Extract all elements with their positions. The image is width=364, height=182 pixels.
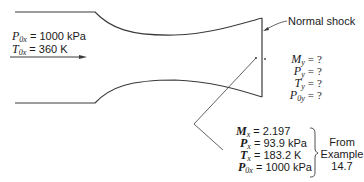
equals: = [308, 65, 314, 77]
value: 1000 kPa [39, 30, 85, 42]
source-note-line2: Example [320, 148, 364, 160]
source-note-line1: From [320, 136, 364, 148]
known-p0x: P0x = 1000 kPa [238, 161, 312, 177]
value: 360 K [39, 43, 68, 55]
unknown-p0y: P0y = ? [266, 89, 322, 105]
value: ? [317, 89, 322, 101]
shock-leader-arrow-icon [263, 27, 269, 31]
source-note-line3: 14.7 [320, 160, 364, 172]
equals: = [308, 77, 314, 89]
value: 183.2 K [263, 149, 301, 161]
value: ? [317, 65, 322, 77]
source-note: From Example 14.7 [320, 136, 364, 172]
upstream-point-dot [255, 57, 257, 59]
equals: = [308, 89, 314, 101]
equals: = [29, 43, 35, 55]
symbol: T [12, 42, 19, 56]
normal-shock-label: Normal shock [288, 15, 355, 27]
value: 93.9 kPa [263, 137, 306, 149]
equals: = [254, 149, 260, 161]
equals: = [254, 137, 260, 149]
equals: = [253, 125, 259, 137]
subscript: 0x [245, 166, 253, 175]
value: 1000 kPa [265, 161, 311, 173]
subscript: 0y [297, 94, 305, 103]
value: 2.197 [263, 125, 291, 137]
equals: = [256, 161, 262, 173]
value: ? [317, 77, 322, 89]
equals: = [30, 30, 36, 42]
inlet-t0x-label: T0x = 360 K [12, 43, 68, 59]
flow-arrow-head-icon [79, 55, 87, 59]
equals: = [308, 53, 314, 65]
subscript: 0x [19, 48, 27, 57]
value: ? [317, 53, 322, 65]
